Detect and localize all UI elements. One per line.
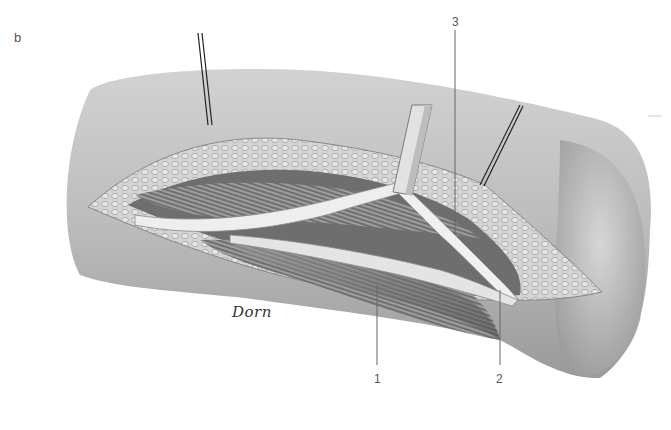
label-1: 1 [374,372,381,386]
surgical-illustration [0,0,671,430]
artist-signature: Dorn [232,303,272,321]
label-3: 3 [452,15,459,29]
label-2: 2 [496,372,503,386]
